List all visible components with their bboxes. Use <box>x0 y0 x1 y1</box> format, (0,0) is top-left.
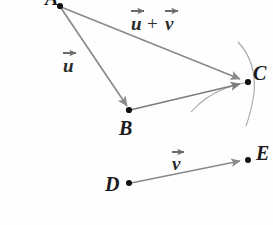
point-B-dot <box>126 107 132 113</box>
point-label-E: E <box>255 142 269 164</box>
vector-label-u: u <box>63 53 76 76</box>
vector-bc-line <box>130 84 240 110</box>
vector-label-sum-u-text: u <box>131 13 142 34</box>
point-E-dot <box>245 157 251 163</box>
point-label-B: B <box>118 117 132 139</box>
small-arc-left-of-C <box>191 82 248 112</box>
vector-diagram-svg: A B C D E u u + v v <box>0 0 273 225</box>
vector-label-v: v <box>172 152 184 174</box>
vector-label-plus-sign: + <box>147 13 158 34</box>
construction-arcs <box>191 42 254 126</box>
vector-label-u-text: u <box>63 55 74 76</box>
vector-diagram-canvas: A B C D E u u + v v <box>0 0 273 225</box>
vector-v-line <box>131 161 240 183</box>
vector-label-sum-v-text: v <box>165 13 174 34</box>
point-C-dot <box>245 79 251 85</box>
point-D-dot <box>126 180 132 186</box>
vector-label-u-plus-v: u + v <box>131 11 178 34</box>
vector-label-v-text: v <box>172 153 181 174</box>
point-label-A: A <box>43 0 58 9</box>
point-label-C: C <box>253 62 267 84</box>
point-label-D: D <box>104 173 119 195</box>
